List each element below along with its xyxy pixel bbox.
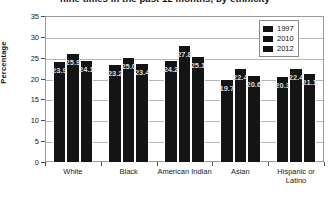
bar-value-label: 22.4 [289,73,304,82]
bar[interactable]: 19.7 [220,80,234,162]
legend-label: 2012 [277,44,294,53]
legend-label: 1997 [277,24,294,33]
legend-item[interactable]: 2012 [263,44,294,53]
bar-value-label: 25.0 [121,62,136,71]
bar-group: 19.722.420.6 [220,16,261,162]
y-axis-tick-label: 15 [0,95,39,104]
y-axis-title: Percentage [0,41,8,83]
bar[interactable]: 20.3 [276,77,290,162]
bar-group: 23.925.924.1 [53,16,94,162]
bar[interactable]: 25.0 [122,58,136,162]
x-axis-category-label: Black [101,168,157,177]
bar-value-label: 23.9 [52,66,67,75]
bar-value-label: 20.6 [246,80,261,89]
bar[interactable]: 20.6 [247,76,261,162]
bar[interactable]: 27.8 [178,46,192,162]
x-axis-tick [268,162,269,166]
bar-value-label: 25.1 [191,61,206,70]
bar[interactable]: 25.9 [66,54,80,162]
x-axis-category-label: Asian [212,168,268,177]
bar[interactable]: 22.4 [234,69,248,162]
bar-value-label: 23.2 [108,69,123,78]
legend-swatch-icon [263,26,273,32]
bar-value-label: 25.9 [66,58,81,67]
bar[interactable]: 22.4 [289,69,303,162]
x-axis-category-label: White [45,168,101,177]
x-axis-tick [45,162,46,166]
x-axis-tick [157,162,158,166]
bar-value-label: 24.1 [79,65,94,74]
x-axis-tick [101,162,102,166]
bar-group: 23.225.023.4 [108,16,149,162]
bar[interactable]: 21.1 [303,74,317,162]
bar[interactable]: 23.9 [53,62,67,162]
x-axis-tick [212,162,213,166]
bar-value-label: 22.4 [233,73,248,82]
chart-figure: nine times in the past 12 months, by eth… [0,0,330,197]
chart-title: nine times in the past 12 months, by eth… [0,0,330,4]
legend-item[interactable]: 1997 [263,24,294,33]
bar-value-label: 20.3 [275,81,290,90]
legend-item[interactable]: 2010 [263,34,294,43]
x-axis-tick [324,162,325,166]
y-axis-tick-label: 5 [0,137,39,146]
bar[interactable]: 24.2 [164,61,178,162]
bar[interactable]: 23.4 [135,64,149,162]
bar-value-label: 21.1 [302,78,317,87]
y-axis-tick-label: 10 [0,116,39,125]
bar-value-label: 23.4 [135,68,150,77]
bar[interactable]: 24.1 [80,61,94,162]
legend-swatch-icon [263,36,273,42]
bar-value-label: 24.2 [164,65,179,74]
x-axis-category-label: American Indian [157,168,213,177]
bar-group: 24.227.825.1 [164,16,205,162]
y-axis-tick-label: 0 [0,158,39,167]
bar-value-label: 27.8 [177,50,192,59]
x-axis-category-label: Hispanic or Latino [268,168,324,185]
legend-swatch-icon [263,46,273,52]
chart-legend: 199720102012 [259,20,299,57]
y-axis-tick-label: 35 [0,12,39,21]
bar[interactable]: 23.2 [108,65,122,162]
bar-value-label: 19.7 [219,84,234,93]
bar[interactable]: 25.1 [191,57,205,162]
legend-label: 2010 [277,34,294,43]
